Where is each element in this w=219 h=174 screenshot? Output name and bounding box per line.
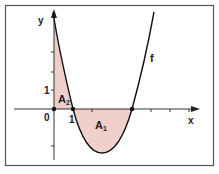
y-tick-label: 1	[44, 85, 50, 96]
x-axis-label: x	[188, 115, 194, 126]
root-point-2	[130, 107, 134, 111]
x-tick-label: 1	[69, 114, 75, 125]
y-axis-label: y	[38, 15, 44, 26]
root-point-1	[71, 107, 75, 111]
origin-label: 0	[44, 112, 50, 123]
origin-point	[52, 107, 56, 111]
x-axis-arrow-icon	[191, 106, 200, 112]
curve-label: f	[150, 52, 154, 64]
function-area-diagram: y x 0 1 1 f A1 A2	[0, 0, 219, 174]
